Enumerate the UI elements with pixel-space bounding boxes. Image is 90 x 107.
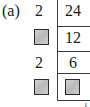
ladder-divider-3	[57, 73, 90, 74]
divisor-blank-box-2[interactable]	[34, 29, 49, 45]
divisor-1: 2	[35, 3, 43, 19]
ladder-divider-2	[57, 51, 90, 52]
ladder-divider-1	[57, 26, 90, 27]
quotient-1: 24	[65, 3, 81, 19]
quotient-2: 12	[65, 30, 81, 46]
bottom-value: 1	[84, 102, 88, 107]
quotient-3: 6	[69, 55, 77, 71]
quotient-blank-box-4[interactable]	[65, 79, 80, 95]
problem-label: (a)	[2, 3, 20, 19]
ladder-vertical-line	[57, 0, 58, 100]
divisor-3: 2	[35, 55, 43, 71]
divisor-blank-box-4[interactable]	[34, 79, 49, 95]
